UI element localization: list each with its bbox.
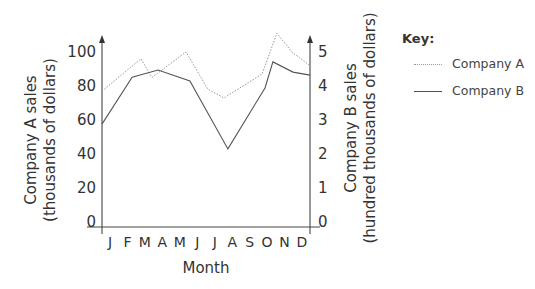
right-tick-label: 2	[318, 145, 328, 163]
x-axis-month-labels: JFMAMJJASOND	[107, 234, 307, 250]
svg-text:Company A sales: Company A sales	[22, 75, 40, 205]
month-label: J	[212, 234, 217, 250]
month-label: S	[245, 234, 254, 250]
month-label: F	[123, 234, 131, 250]
legend-item-company-b: Company B	[414, 83, 534, 101]
left-tick-label: 0	[86, 213, 96, 231]
month-label: M	[174, 234, 186, 250]
month-label: N	[279, 234, 289, 250]
legend-label: Company A	[452, 56, 524, 71]
month-label: J	[107, 234, 112, 250]
svg-text:Company B sales: Company B sales	[342, 63, 360, 193]
month-label: A	[158, 234, 168, 250]
left-tick-label: 80	[77, 77, 96, 95]
right-tick-label: 0	[318, 213, 328, 231]
legend-label: Company B	[452, 83, 524, 98]
left-tick-label: 100	[67, 43, 96, 61]
left-axis-ticks: 020406080100	[67, 43, 96, 231]
left-tick-label: 40	[77, 145, 96, 163]
right-tick-label: 3	[318, 111, 328, 129]
series-line-company-a	[102, 33, 310, 98]
legend-title: Key:	[402, 31, 434, 46]
right-tick-label: 1	[318, 179, 328, 197]
left-tick-label: 60	[77, 111, 96, 129]
solid-line-swatch-icon	[414, 91, 442, 92]
right-tick-label: 5	[318, 43, 328, 61]
axes	[87, 35, 320, 234]
left-tick-label: 20	[77, 179, 96, 197]
month-label: M	[139, 234, 151, 250]
legend-item-company-a: Company A	[414, 56, 534, 74]
right-tick-label: 4	[318, 77, 328, 95]
month-label: D	[297, 234, 308, 250]
svg-text:(thousands of dollars): (thousands of dollars)	[41, 58, 59, 222]
series-line-company-b	[102, 62, 310, 149]
chart: 020406080100 012345 JFMAMJJASOND Month C…	[0, 0, 535, 289]
month-label: O	[262, 234, 273, 250]
right-axis-ticks: 012345	[318, 43, 328, 231]
dotted-line-swatch-icon	[414, 64, 442, 65]
right-axis-title: Company B sales (hundred thousands of do…	[342, 12, 379, 243]
month-label: A	[227, 234, 237, 250]
x-axis-title: Month	[182, 259, 229, 277]
left-axis-title: Company A sales (thousands of dollars)	[22, 58, 59, 222]
month-label: J	[194, 234, 199, 250]
svg-text:(hundred thousands of dollars): (hundred thousands of dollars)	[361, 12, 379, 243]
